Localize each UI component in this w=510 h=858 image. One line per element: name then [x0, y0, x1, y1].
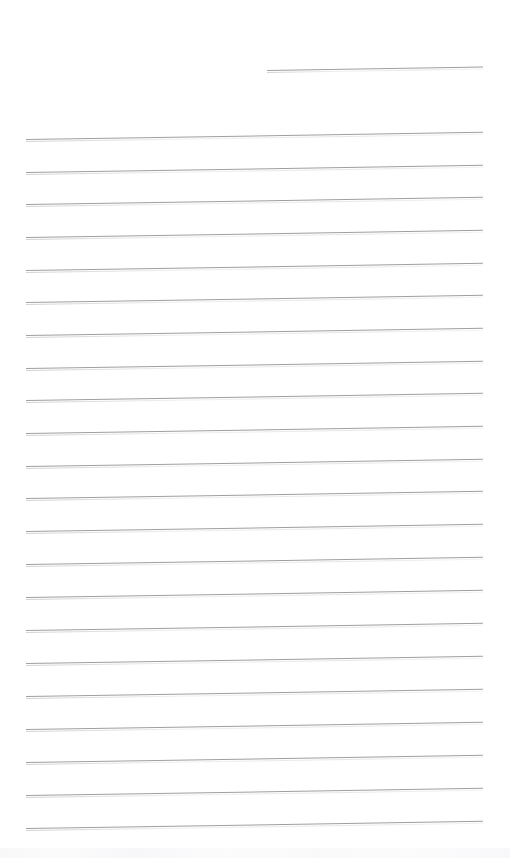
scanned-page: Blank ruled page [0, 0, 510, 858]
